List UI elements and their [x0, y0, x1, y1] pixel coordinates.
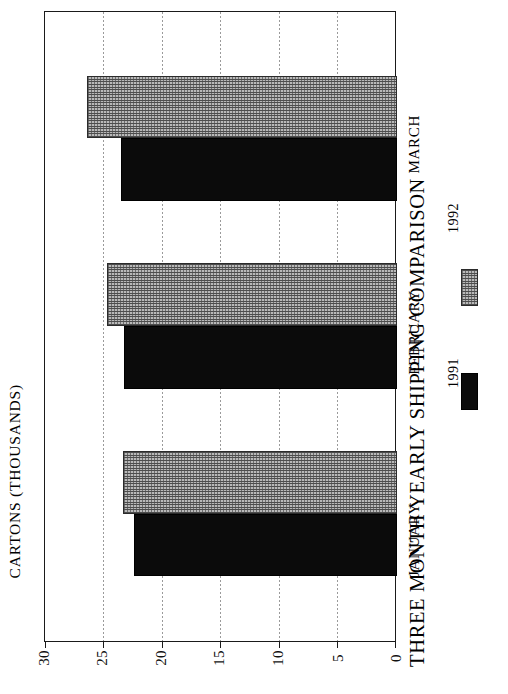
- tick-30: [45, 641, 46, 648]
- tick-label-25: 25: [94, 650, 111, 666]
- legend-swatch-1992: [461, 269, 478, 306]
- tick-25: [103, 641, 104, 648]
- tick-label-0: 0: [388, 654, 405, 662]
- legend-label-1992: 1992: [446, 203, 462, 233]
- chart-title: THREE MONTH YEARLY SHIPPING COMPARISON: [406, 178, 429, 667]
- tick-20: [162, 641, 163, 648]
- legend-label-1991: 1991: [446, 358, 462, 388]
- category-label-march: MARCH: [406, 115, 423, 174]
- value-axis-title: CARTONS (THOUSANDS): [6, 384, 24, 578]
- bar-january-1992: [123, 451, 397, 514]
- bar-february-1992: [107, 263, 397, 326]
- tick-label-20: 20: [153, 650, 170, 666]
- bar-march-1991: [121, 138, 397, 201]
- chart-plot-area: [44, 11, 396, 642]
- tick-label-5: 5: [330, 654, 347, 662]
- tick-label-10: 10: [270, 650, 287, 666]
- legend-swatch-1991: [461, 373, 478, 410]
- tick-10: [279, 641, 280, 648]
- bar-march-1992: [87, 76, 397, 138]
- tick-0: [395, 641, 396, 648]
- tick-label-15: 15: [211, 650, 228, 666]
- tick-5: [337, 641, 338, 648]
- bar-february-1991: [124, 326, 397, 389]
- tick-label-30: 30: [36, 650, 53, 666]
- bar-january-1991: [134, 514, 397, 576]
- tick-15: [220, 641, 221, 648]
